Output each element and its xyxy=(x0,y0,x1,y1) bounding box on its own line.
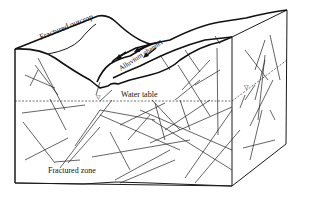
water-table-symbol-icon: ▽ xyxy=(244,84,249,90)
water-table-symbol-icon: ▽ xyxy=(96,94,101,100)
fractures xyxy=(22,35,280,183)
label-water-table: Water table xyxy=(121,91,157,99)
label-fractured-zone: Fractured zone xyxy=(48,167,96,175)
